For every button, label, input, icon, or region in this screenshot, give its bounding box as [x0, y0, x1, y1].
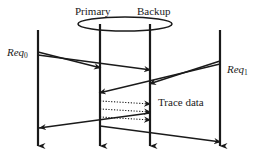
req1-to-primary-arrow	[99, 64, 220, 93]
req0-to-backup-arrow	[38, 55, 151, 70]
primary-label: Primary	[75, 6, 110, 17]
request-1-subscript: 1	[244, 68, 248, 77]
trace-data-arrow-1	[100, 101, 151, 104]
request-0-subscript: 0	[24, 51, 28, 60]
primary-to-client-right-arrow	[100, 126, 221, 142]
request-1-text: Req	[227, 63, 244, 75]
backup-to-client-left-arrow	[39, 113, 150, 128]
sequence-diagram: Primary Backup Req0 Req1 Trace data	[0, 0, 262, 160]
request-0-text: Req	[7, 46, 24, 58]
trace-data-label: Trace data	[158, 97, 204, 108]
primary-backup-group-ellipse	[78, 17, 172, 31]
req0-to-primary-arrow	[38, 52, 101, 68]
diagram-canvas	[0, 0, 262, 160]
request-1-label: Req1	[227, 64, 248, 75]
request-0-label: Req0	[7, 47, 28, 58]
trace-data-arrow-2	[100, 109, 151, 112]
backup-label: Backup	[137, 6, 171, 17]
